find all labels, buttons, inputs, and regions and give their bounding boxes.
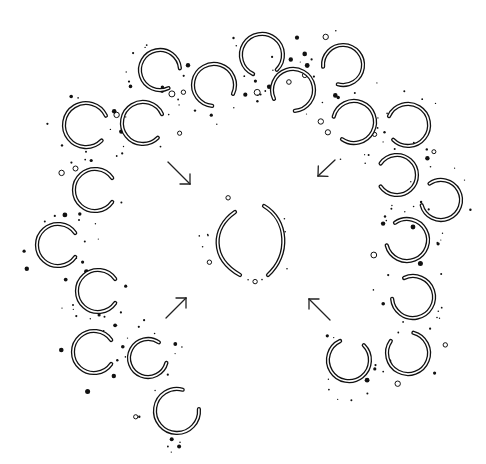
ring-node-icon xyxy=(392,276,434,318)
center-right-arc-icon xyxy=(264,206,283,275)
ring-node-icon xyxy=(37,224,75,266)
ring-node-icon xyxy=(122,102,162,144)
ring-node-icon xyxy=(323,45,363,85)
ring-nodes xyxy=(37,34,461,433)
ring-node-icon xyxy=(272,69,314,111)
ring-node-icon xyxy=(73,331,111,373)
ink-speckles xyxy=(23,30,472,453)
center-arc-pair xyxy=(218,206,284,275)
arrow-down-left-icon xyxy=(318,160,335,176)
ring-node-icon xyxy=(422,180,461,220)
ring-pattern-illustration xyxy=(0,0,486,464)
arrow-up-left-icon xyxy=(309,299,330,320)
ring-node-icon xyxy=(77,270,115,312)
ring-node-icon xyxy=(328,341,370,381)
center-left-arc-icon xyxy=(218,212,240,275)
ring-node-icon xyxy=(64,103,106,147)
ring-node-icon xyxy=(334,101,375,143)
ring-node-icon xyxy=(381,155,417,195)
ring-node-icon xyxy=(389,104,429,146)
arrow-down-right-icon xyxy=(168,162,190,184)
diagram-canvas xyxy=(0,0,486,464)
ring-node-icon xyxy=(140,50,180,90)
ring-node-icon xyxy=(155,389,199,433)
ring-node-icon xyxy=(387,333,429,374)
ring-node-icon xyxy=(74,169,112,211)
arrow-up-right-icon xyxy=(166,298,186,318)
inward-arrows xyxy=(166,160,335,320)
ring-node-icon xyxy=(241,34,283,74)
ring-node-icon xyxy=(129,339,166,377)
ring-node-icon xyxy=(387,219,428,261)
ring-node-icon xyxy=(193,64,235,106)
